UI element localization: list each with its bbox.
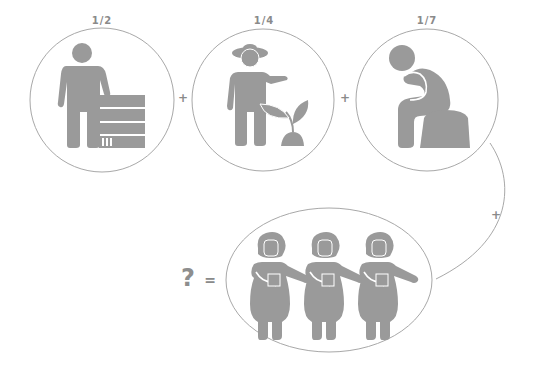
plus-sign-2: + (340, 91, 350, 105)
plus-sign-3: + (491, 208, 501, 222)
person-with-books-icon (58, 43, 145, 148)
woman-figure-icon (304, 232, 364, 340)
woman-figure-icon (358, 232, 418, 340)
equals-sign: = (204, 272, 216, 288)
farmer-with-plant-icon (227, 44, 308, 146)
thinking-person-sitting-icon (389, 45, 470, 148)
woman-figure-icon (250, 232, 310, 340)
fraction-puzzle-diagram: 1/2 1/4 1/7 + + + ? = (0, 0, 535, 377)
fraction-label-2: 1/4 (254, 15, 275, 26)
plus-sign-1: + (178, 91, 188, 105)
fraction-label-3: 1/7 (417, 15, 438, 26)
unknown-symbol: ? (181, 264, 195, 292)
fraction-label-1: 1/2 (92, 15, 113, 26)
